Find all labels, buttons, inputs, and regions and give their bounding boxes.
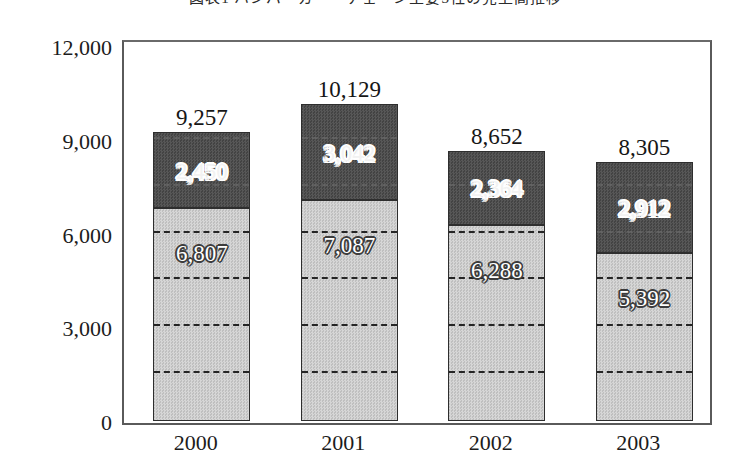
y-tick-label: 9,000 xyxy=(63,131,113,153)
bar-value-label-upper: 2,364 xyxy=(449,177,544,200)
y-tick-label: 6,000 xyxy=(63,225,113,247)
gridline xyxy=(302,371,397,373)
gridline xyxy=(449,324,544,326)
gridline xyxy=(302,137,397,139)
bar-value-label-lower: 6,288 xyxy=(449,259,544,282)
bar-group[interactable]: 6,8072,450 xyxy=(153,132,250,421)
gridline xyxy=(449,231,544,233)
bar-group[interactable]: 7,0873,042 xyxy=(301,104,398,421)
x-tick-label: 2002 xyxy=(417,430,565,456)
bar-total-label: 9,257 xyxy=(153,106,250,129)
gridline xyxy=(597,231,692,233)
bar-segment-upper[interactable]: 2,450 xyxy=(153,132,250,209)
gridline xyxy=(154,277,249,279)
gridline xyxy=(154,231,249,233)
bar-segment-lower[interactable]: 6,288 xyxy=(448,225,545,422)
gridline xyxy=(302,324,397,326)
chart-root: 図表1 ハンバーガー・チェーン主要3社の売上高推移 03,0006,0009,0… xyxy=(0,0,751,473)
bar-segment-lower[interactable]: 5,392 xyxy=(596,253,693,422)
x-axis-labels: 2000200120022003 xyxy=(122,430,712,470)
bar-value-label-upper: 2,912 xyxy=(597,197,692,220)
plot-area: 6,8072,4509,2577,0873,04210,1296,2882,36… xyxy=(122,40,712,425)
bar-segment-upper[interactable]: 2,364 xyxy=(448,151,545,225)
gridline xyxy=(597,277,692,279)
bar-segment-upper[interactable]: 3,042 xyxy=(301,104,398,199)
bar-group[interactable]: 6,2882,364 xyxy=(448,151,545,421)
gridline xyxy=(154,371,249,373)
bar-value-label-upper: 3,042 xyxy=(302,142,397,165)
bar-total-label: 8,305 xyxy=(596,136,693,159)
gridline xyxy=(449,371,544,373)
bar-segment-lower[interactable]: 7,087 xyxy=(301,200,398,421)
bar-segment-lower[interactable]: 6,807 xyxy=(153,208,250,421)
chart-title: 図表1 ハンバーガー・チェーン主要3社の売上高推移 xyxy=(0,0,751,8)
gridline xyxy=(597,184,692,186)
gridline xyxy=(302,277,397,279)
bar-value-label-upper: 2,450 xyxy=(154,160,249,183)
x-tick-label: 2001 xyxy=(270,430,418,456)
gridline xyxy=(154,137,249,139)
y-axis-labels: 03,0006,0009,00012,000 xyxy=(0,40,112,425)
bar-value-label-lower: 7,087 xyxy=(302,234,397,257)
bar-value-label-lower: 6,807 xyxy=(154,242,249,265)
y-tick-label: 12,000 xyxy=(52,37,113,59)
x-tick-label: 2000 xyxy=(122,430,270,456)
x-tick-label: 2003 xyxy=(565,430,713,456)
gridline xyxy=(597,371,692,373)
bar-segment-upper[interactable]: 2,912 xyxy=(596,162,693,253)
bar-group[interactable]: 5,3922,912 xyxy=(596,162,693,422)
plot-inner: 6,8072,4509,2577,0873,04210,1296,2882,36… xyxy=(124,42,710,423)
gridline xyxy=(302,184,397,186)
gridline xyxy=(154,324,249,326)
bar-total-label: 8,652 xyxy=(448,125,545,148)
y-tick-label: 0 xyxy=(101,412,112,434)
gridline xyxy=(597,324,692,326)
y-tick-label: 3,000 xyxy=(63,318,113,340)
bar-total-label: 10,129 xyxy=(301,78,398,101)
bar-value-label-lower: 5,392 xyxy=(597,287,692,310)
